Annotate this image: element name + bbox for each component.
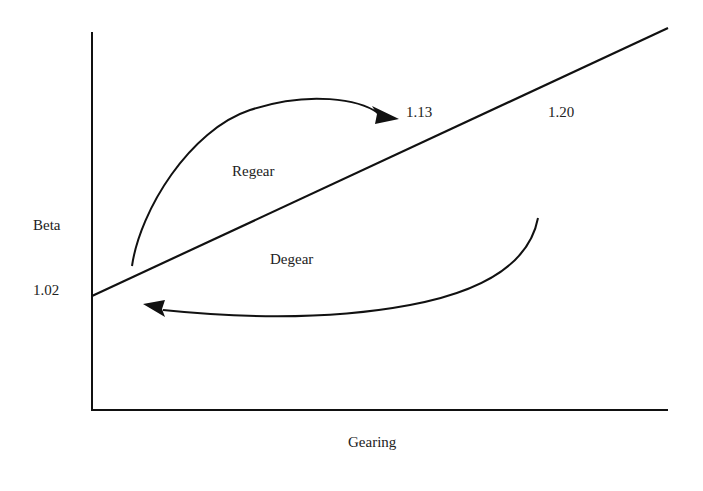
x-axis-label: Gearing	[348, 434, 397, 450]
degear-arrow-curve	[163, 218, 538, 316]
degear-beta-value: 1.20	[548, 104, 574, 120]
beta-gearing-diagram: Beta 1.02 Gearing 1.13 1.20 Regear Degea…	[0, 0, 703, 491]
y-axis-label: Beta	[33, 217, 61, 233]
regear-beta-value: 1.13	[406, 104, 432, 120]
beta-gearing-line	[92, 28, 668, 296]
regear-label: Regear	[232, 163, 274, 179]
regear-arrow-curve	[132, 99, 378, 266]
start-beta-value: 1.02	[33, 282, 59, 298]
degear-arrowhead-icon	[143, 300, 165, 317]
regear-arrowhead-icon	[372, 106, 399, 124]
degear-label: Degear	[270, 251, 313, 267]
